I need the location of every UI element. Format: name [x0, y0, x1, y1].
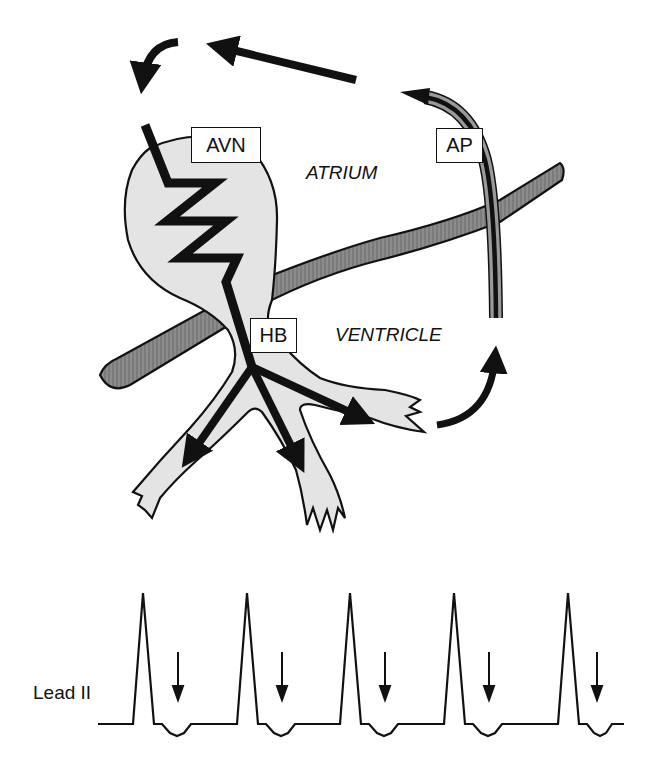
hb-label: HB	[250, 318, 297, 353]
ecg-trace	[98, 593, 624, 736]
ventricle-to-ap-arrow	[437, 358, 495, 425]
reentry-diagram	[0, 0, 660, 769]
atrial-return-arrow	[220, 47, 356, 80]
ap-exit-arrowhead	[400, 88, 430, 105]
avn-entry-curve-arrow	[143, 42, 178, 80]
ecg-arrows	[173, 652, 602, 700]
atrium-label: ATRIUM	[306, 162, 377, 184]
ap-label: AP	[436, 128, 483, 163]
avn-label: AVN	[191, 127, 261, 163]
ventricle-label: VENTRICLE	[335, 324, 442, 346]
ecg-lead-label: Lead II	[33, 682, 91, 704]
